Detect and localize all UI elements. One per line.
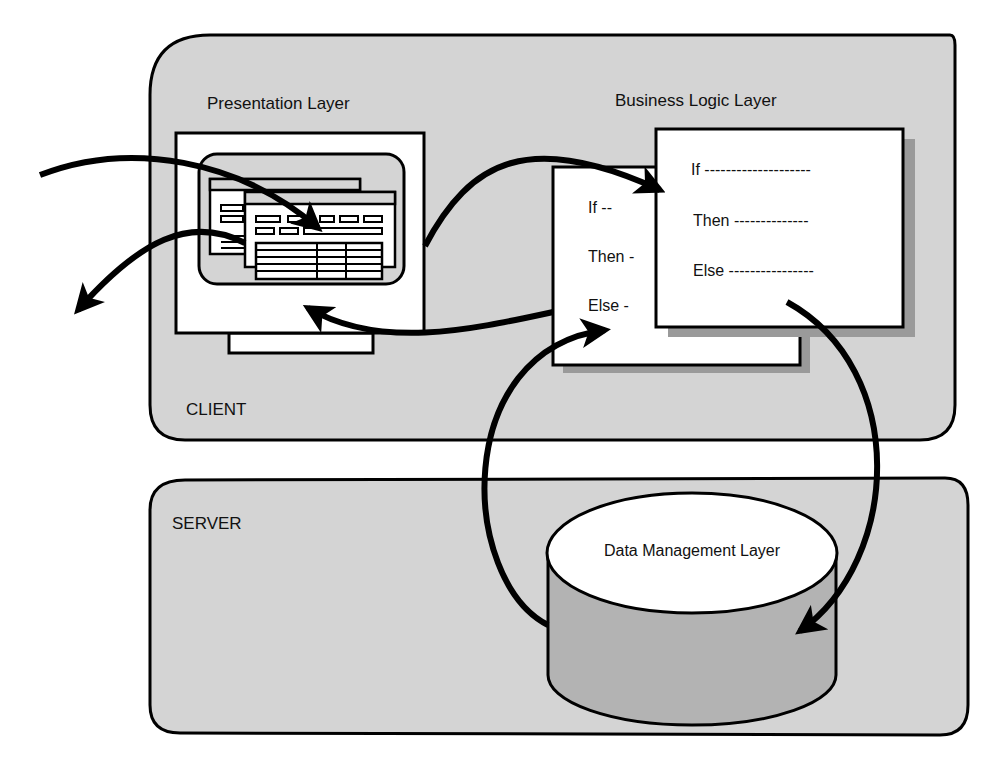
front-else-text: Else ---------------- xyxy=(693,262,814,279)
data-management-label: Data Management Layer xyxy=(604,542,781,559)
presentation-layer: Presentation Layer xyxy=(176,94,424,353)
front-then-text: Then -------------- xyxy=(693,212,809,229)
back-if-text: If -- xyxy=(588,199,612,216)
front-window-icon xyxy=(245,192,395,279)
back-then-text: Then - xyxy=(588,248,634,265)
data-management-layer: Data Management Layer xyxy=(547,493,837,725)
front-if-text: If -------------------- xyxy=(691,161,811,178)
business-label: Business Logic Layer xyxy=(615,91,777,110)
back-else-text: Else - xyxy=(588,297,629,314)
client-label: CLIENT xyxy=(186,400,246,419)
presentation-label: Presentation Layer xyxy=(207,94,350,113)
server-label: SERVER xyxy=(172,514,242,533)
three-tier-architecture-diagram: CLIENT SERVER Presentation Layer xyxy=(0,0,988,765)
monitor-stand xyxy=(229,333,373,353)
